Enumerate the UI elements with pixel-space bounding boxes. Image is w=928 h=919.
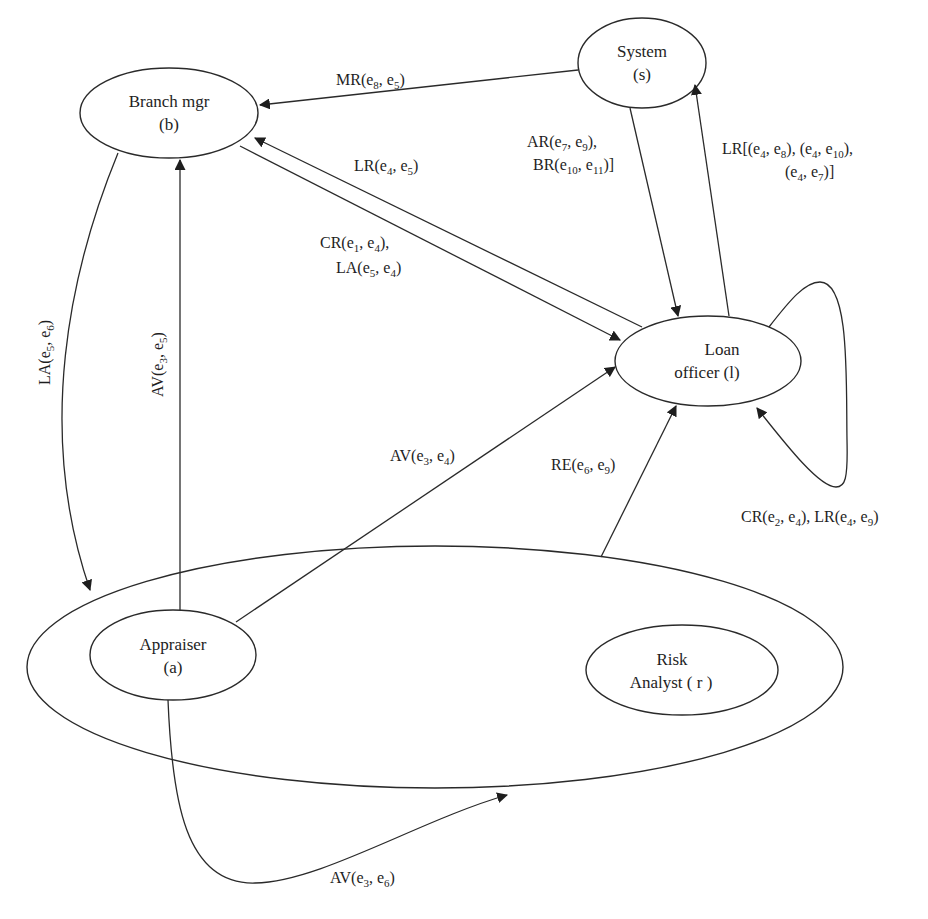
loan-officer-label: Loan bbox=[705, 340, 740, 359]
branch-mgr-ellipse bbox=[80, 68, 258, 158]
edge-re-group-to-loan bbox=[601, 406, 676, 557]
label-lr-loan-to-system-line2: (e4, e7)] bbox=[785, 163, 834, 183]
label-av-appraiser-to-loan: AV(e3, e4) bbox=[390, 447, 455, 467]
label-br: BR(e10, e11)] bbox=[533, 156, 614, 176]
appraiser-label: Appraiser bbox=[139, 635, 206, 654]
loan-officer-ellipse bbox=[615, 316, 801, 406]
label-ar: AR(e7, e9), bbox=[527, 133, 597, 153]
appraiser-ellipse bbox=[90, 610, 256, 700]
label-lr-loan-to-system-line1: LR[(e4, e8), (e4, e10), bbox=[722, 140, 853, 160]
system-abbrev: (s) bbox=[633, 65, 651, 84]
label-re: RE(e6, e9) bbox=[551, 456, 615, 476]
branch-mgr-label: Branch mgr bbox=[129, 92, 210, 111]
label-cr: CR(e1, e4), bbox=[320, 234, 389, 254]
appraiser-abbrev: (a) bbox=[164, 658, 183, 677]
label-la: LA(e5, e4) bbox=[336, 259, 401, 279]
edge-lr-loan-to-system bbox=[695, 85, 729, 316]
system-label: System bbox=[617, 42, 667, 61]
edge-ar-br-system-to-loan bbox=[630, 108, 678, 316]
role-interaction-diagram: System (s) Branch mgr (b) Loan officer (… bbox=[0, 0, 928, 919]
label-lr-loan-to-branch: LR(e4, e5) bbox=[354, 157, 418, 177]
appraiser-risk-group-ellipse bbox=[27, 546, 843, 788]
edge-cr-la-branch-to-loan bbox=[240, 146, 620, 340]
loan-officer-abbrev: officer (l) bbox=[674, 363, 739, 382]
label-self-loop: CR(e2, e4), LR(e4, e9) bbox=[741, 508, 879, 528]
edge-av-appraiser-to-group bbox=[168, 700, 507, 883]
system-ellipse bbox=[578, 18, 706, 108]
node-branch-mgr[interactable]: Branch mgr (b) bbox=[80, 68, 258, 158]
label-av-appraiser-to-branch: AV(e3, e5) bbox=[149, 332, 169, 397]
risk-analyst-abbrev: Analyst ( r ) bbox=[630, 673, 713, 692]
edge-av-appraiser-to-loan bbox=[236, 367, 615, 622]
edge-mr-system-to-branch bbox=[260, 70, 578, 105]
node-loan-officer[interactable]: Loan officer (l) bbox=[615, 316, 801, 406]
edge-self-loop-loan-officer bbox=[757, 282, 847, 487]
risk-analyst-ellipse bbox=[586, 625, 778, 715]
branch-mgr-abbrev: (b) bbox=[159, 115, 179, 134]
label-la-branch-to-group: LA(e5, e6) bbox=[36, 320, 56, 385]
node-risk-analyst[interactable]: Risk Analyst ( r ) bbox=[586, 625, 778, 715]
edge-la-branch-to-group bbox=[62, 153, 118, 590]
node-appraiser[interactable]: Appraiser (a) bbox=[90, 610, 256, 700]
node-system[interactable]: System (s) bbox=[578, 18, 706, 108]
risk-analyst-label: Risk bbox=[656, 650, 688, 669]
label-av-appraiser-to-group: AV(e3, e6) bbox=[330, 869, 395, 889]
label-mr: MR(e8, e5) bbox=[336, 71, 405, 91]
